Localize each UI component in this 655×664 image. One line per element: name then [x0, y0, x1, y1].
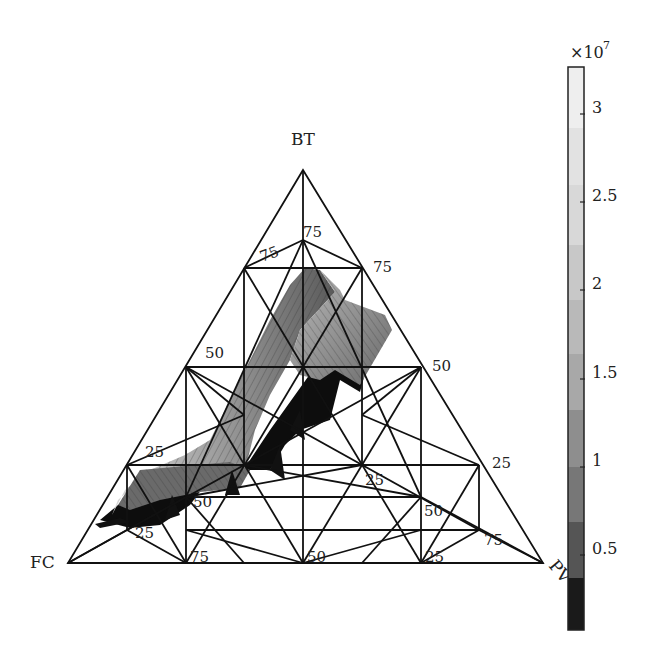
- tick-label: 50: [307, 548, 326, 566]
- tick-label: 50: [432, 357, 451, 375]
- tick-label: 25: [492, 454, 511, 472]
- tick-label: 75: [257, 242, 281, 265]
- tick-label: 50: [424, 502, 443, 520]
- colorbar: ×10 7 3 2.5 2 1.5 1 0.5: [568, 39, 617, 630]
- colorbar-tick: 2.5: [592, 186, 617, 205]
- tick-label: 75: [484, 531, 503, 549]
- tick-label: 75: [190, 548, 209, 566]
- colorbar-tick: 2: [592, 274, 602, 293]
- colorbar-tick: 0.5: [592, 539, 617, 558]
- tick-label: 75: [303, 223, 322, 241]
- ternary-chart: BT FC PV 75 75 75 50 50 25 25 25 50 50 2…: [0, 0, 655, 664]
- tick-label: 25: [145, 443, 164, 461]
- tick-label: 75: [373, 258, 392, 276]
- tick-label: 50: [205, 344, 224, 362]
- axis-label-top: BT: [291, 129, 315, 149]
- tick-label: 25: [425, 548, 444, 566]
- tick-label: 25: [135, 524, 154, 542]
- colorbar-tick: 3: [592, 98, 602, 117]
- axis-label-left: FC: [30, 552, 55, 572]
- tick-label: 50: [193, 493, 212, 511]
- colorbar-exponent-base: ×10: [570, 43, 604, 62]
- colorbar-tick: 1: [592, 451, 602, 470]
- tick-label: 25: [365, 471, 384, 489]
- colorbar-tick: 1.5: [592, 363, 617, 382]
- colorbar-exponent: 7: [603, 39, 610, 52]
